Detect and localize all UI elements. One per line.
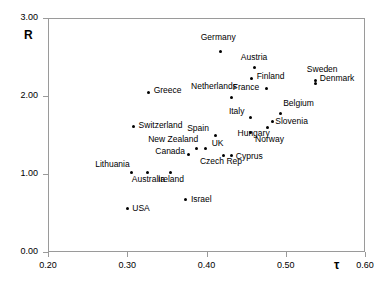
y-axis-title: R	[24, 28, 33, 42]
y-tick-label: 1.00	[8, 168, 38, 178]
y-tick-mark	[43, 174, 48, 175]
x-tick-label: 0.40	[190, 260, 224, 270]
y-tick-label: 0.00	[8, 246, 38, 256]
data-point-label: Lithuania	[95, 160, 130, 169]
data-point-label: Finland	[257, 72, 285, 81]
data-point-label: UK	[212, 139, 224, 148]
data-point-label: USA	[132, 204, 149, 213]
data-point-label: Austria	[241, 53, 267, 62]
x-tick-label: 0.30	[110, 260, 144, 270]
data-point-label: Canada	[155, 147, 185, 156]
data-point-label: Norway	[255, 135, 284, 144]
y-tick-mark	[43, 18, 48, 19]
data-point-label: New Zealand	[148, 135, 198, 144]
data-point-label: Greece	[154, 86, 182, 95]
data-point-label: Slovenia	[275, 117, 308, 126]
data-point-label: Cyprus	[236, 152, 263, 161]
x-tick-mark	[48, 252, 49, 257]
x-tick-label: 0.20	[31, 260, 65, 270]
plot-area	[48, 18, 365, 252]
x-tick-label: 0.50	[269, 260, 303, 270]
data-point-marker	[204, 147, 207, 150]
data-point-marker	[126, 207, 129, 210]
x-tick-mark	[207, 252, 208, 257]
data-point-marker	[230, 96, 233, 99]
data-point-marker	[195, 147, 198, 150]
x-tick-label: 0.60	[348, 260, 382, 270]
y-tick-label: 3.00	[8, 12, 38, 22]
data-point-marker	[279, 112, 282, 115]
x-tick-mark	[286, 252, 287, 257]
data-point-label: Israel	[191, 195, 212, 204]
data-point-label: Denmark	[320, 74, 354, 83]
data-point-label: Spain	[187, 124, 209, 133]
data-point-marker	[147, 91, 150, 94]
data-point-label: Italy	[229, 107, 245, 116]
x-axis-title: τ	[334, 258, 339, 272]
y-tick-label: 2.00	[8, 90, 38, 100]
y-tick-mark	[43, 96, 48, 97]
data-point-marker	[214, 134, 217, 137]
data-point-label: Belgium	[283, 99, 314, 108]
data-point-label: Netherlands	[191, 82, 237, 91]
x-tick-mark	[365, 252, 366, 257]
data-point-label: Ireland	[158, 175, 184, 184]
data-point-label: France	[233, 83, 259, 92]
x-tick-mark	[127, 252, 128, 257]
data-point-label: Germany	[201, 33, 236, 42]
scatter-chart: R τ 0.001.002.003.00 0.200.300.400.500.6…	[0, 0, 391, 290]
data-point-label: Switzerland	[139, 121, 183, 130]
